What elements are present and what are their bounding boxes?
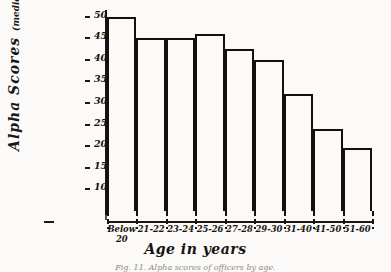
y-tick-mark [85,167,90,169]
bar [195,34,224,211]
y-tick-label: 10 [94,181,107,192]
y-tick-mark [85,124,90,126]
plot-area: 504540353025201510 [57,8,372,211]
y-axis-title: Alpha Scores (median) [6,0,22,178]
x-tick-label: 29-30 [254,225,283,235]
bar [343,148,372,211]
y-tick-label: 15 [94,160,107,171]
y-tick-label: 50 [94,9,107,20]
y-tick-label: 40 [94,52,107,63]
y-tick-label: 25 [94,117,107,128]
x-tick-label: 27-28 [225,225,254,235]
bar [313,129,342,211]
bar [225,49,254,211]
y-tick-mark [85,102,90,104]
y-tick-label: 35 [94,73,107,84]
x-axis-line [107,221,373,223]
y-tick-mark [85,188,90,190]
category-separator [372,211,374,229]
y-tick-mark [85,37,90,39]
bar-series [107,8,372,211]
bar [254,60,283,211]
x-axis-stub [44,221,54,223]
y-tick-mark [85,16,90,18]
x-tick-label: 51-60 [343,225,372,235]
x-tick-label: 31-40 [284,225,313,235]
bar [136,38,165,211]
y-tick-label: 20 [94,138,107,149]
chart-figure: Alpha Scores (median) 504540353025201510… [0,0,391,272]
x-tick-label: 23-24 [166,225,195,235]
y-tick-mark [85,145,90,147]
x-tick-label: 21-22 [136,225,165,235]
bar [166,38,195,211]
y-tick-mark [85,80,90,82]
y-tick-label: 45 [94,30,107,41]
bar [284,94,313,211]
x-axis-title: Age in years [0,241,391,257]
x-tick-label: 41-50 [313,225,342,235]
y-tick-mark [85,59,90,61]
y-tick-label: 30 [94,95,107,106]
bar [107,17,136,211]
y-axis-title-unit: (median) [11,0,21,31]
y-axis-title-main: Alpha Scores [6,37,22,151]
x-tick-label: 25-26 [195,225,224,235]
figure-caption: Fig. 11. Alpha scores of officers by age… [0,263,391,272]
